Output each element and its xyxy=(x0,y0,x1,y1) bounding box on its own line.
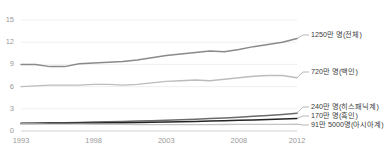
series-line-1 xyxy=(21,76,297,87)
x-tick-label: 2012 xyxy=(289,136,306,145)
line-chart: 03691215 19931998200320082012 1250만 명(전체… xyxy=(0,0,386,153)
leader-line-3 xyxy=(297,116,309,118)
series-label-3: 170만 명(흑인) xyxy=(311,111,358,120)
series-lines-group xyxy=(21,39,297,125)
y-tick-label: 9 xyxy=(10,59,14,68)
y-tick-label: 3 xyxy=(10,104,14,113)
series-line-0 xyxy=(21,39,297,67)
chart-container: 03691215 19931998200320082012 1250만 명(전체… xyxy=(0,0,386,153)
y-tick-label: 15 xyxy=(6,15,14,24)
x-tick-label: 1998 xyxy=(85,136,102,145)
x-tick-label: 1993 xyxy=(13,136,30,145)
leader-line-2 xyxy=(297,107,309,113)
x-tick-label: 2003 xyxy=(158,136,175,145)
y-tick-label: 6 xyxy=(10,82,14,91)
series-label-0: 1250만 명(전체) xyxy=(311,30,362,39)
leader-line-1 xyxy=(297,72,309,78)
leader-lines-group xyxy=(297,35,309,125)
y-tick-label: 12 xyxy=(6,37,14,46)
series-line-4 xyxy=(21,124,297,125)
series-label-1: 720만 명(백인) xyxy=(311,67,358,76)
series-label-4: 91만 5000명(아시아계) xyxy=(311,120,384,129)
series-labels-group: 1250만 명(전체)720만 명(백인)240만 명(히스패닉계)170만 명… xyxy=(311,30,384,129)
leader-line-4 xyxy=(297,124,309,125)
x-axis-ticks-group: 19931998200320082012 xyxy=(13,136,306,145)
leader-line-0 xyxy=(297,35,309,39)
y-axis-ticks-group: 03691215 xyxy=(6,15,14,135)
y-tick-label: 0 xyxy=(10,126,14,135)
x-tick-label: 2008 xyxy=(231,136,248,145)
series-label-2: 240만 명(히스패닉계) xyxy=(311,102,379,111)
